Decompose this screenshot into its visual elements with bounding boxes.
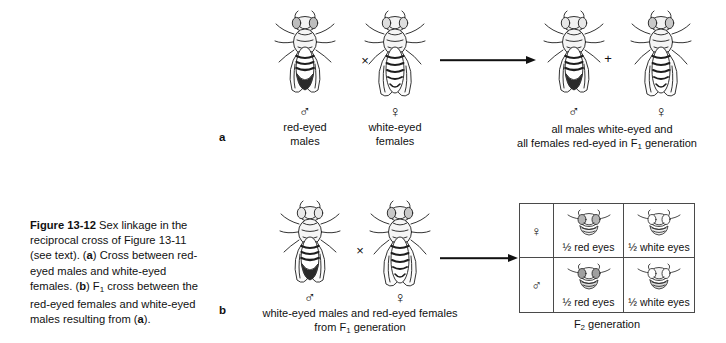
punnett-cell-female-red: ½ red eyes — [554, 204, 624, 258]
panel-b-parents-line2: from F1 generation — [235, 320, 485, 338]
punnett-cell-label: ½ white eyes — [624, 241, 694, 253]
drosophila-fly-icon — [278, 196, 342, 292]
figure-number: Figure 13-12 — [30, 219, 96, 231]
f2-caption-post: generation — [585, 318, 640, 330]
punnett-cell-female-white: ½ white eyes — [624, 204, 694, 258]
drosophila-fly-icon — [273, 6, 337, 102]
male-symbol-parent-a: ♂ — [293, 104, 317, 120]
panel-a-letter: a — [219, 131, 225, 143]
caption-part-3: ) F — [86, 280, 100, 292]
offspring-text-line1: all males white-eyed and — [498, 122, 726, 136]
plus-operator-a: + — [600, 52, 616, 65]
panel-b-line2-post: generation — [351, 321, 406, 333]
drosophila-fly-icon — [629, 6, 693, 102]
offspring-text-line2: all females red-eyed in F1 generation — [488, 136, 726, 154]
parent-male-label-line2: males — [265, 134, 345, 148]
offspring-line2-pre: all females red-eyed in F — [517, 137, 637, 149]
drosophila-head-icon — [567, 209, 611, 236]
right-arrow-icon — [440, 250, 520, 266]
figure-caption: Figure 13-12 Sex linkage in the reciproc… — [30, 218, 198, 327]
female-symbol-offspring-a: ♀ — [649, 104, 673, 120]
drosophila-fly-icon — [368, 196, 432, 292]
right-arrow-icon — [440, 52, 536, 68]
parent-male-label-line1: red-eyed — [265, 120, 345, 134]
panel-b-letter: b — [219, 304, 226, 316]
parent-female-label-line2: females — [355, 134, 435, 148]
punnett-cell-male-red: ½ red eyes — [554, 258, 624, 312]
punnett-square: ♀ — [519, 203, 695, 313]
punnett-cell-label: ½ white eyes — [624, 296, 694, 308]
punnett-cell-label: ½ red eyes — [554, 296, 623, 308]
panel-b-parents-line1: white-eyed males and red-eyed females — [235, 306, 485, 320]
panel-b-line2-pre: from F — [314, 321, 346, 333]
caption-panel-b-marker: b — [79, 280, 86, 292]
female-symbol-parent-b: ♀ — [388, 290, 412, 306]
punnett-row-header-male: ♂ — [520, 258, 554, 312]
drosophila-head-icon — [637, 263, 681, 290]
cross-operator-b: × — [352, 244, 368, 257]
drosophila-head-icon — [637, 209, 681, 236]
male-symbol-parent-b: ♂ — [298, 290, 322, 306]
f2-caption-pre: F — [574, 318, 581, 330]
female-symbol-parent-a: ♀ — [383, 104, 407, 120]
parent-female-label-line1: white-eyed — [355, 120, 435, 134]
offspring-line2-post: generation — [642, 137, 697, 149]
male-symbol-offspring-a: ♂ — [562, 104, 586, 120]
f2-generation-caption: F2 generation — [519, 318, 695, 332]
punnett-cell-male-white: ½ white eyes — [624, 258, 694, 312]
drosophila-fly-icon — [542, 6, 606, 102]
drosophila-head-icon — [567, 263, 611, 290]
caption-part-5: ). — [144, 313, 151, 325]
drosophila-fly-icon — [363, 6, 427, 102]
punnett-cell-label: ½ red eyes — [554, 241, 623, 253]
figure-page: Figure 13-12 Sex linkage in the reciproc… — [0, 0, 726, 343]
punnett-row-header-female: ♀ — [520, 204, 554, 258]
